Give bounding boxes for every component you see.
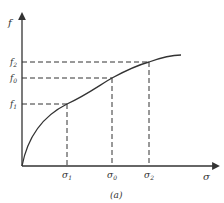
x-axis-label: σ <box>203 171 211 182</box>
tick-s1: σ1 <box>62 170 72 181</box>
tick-f0: f0 <box>9 73 17 84</box>
y-axis-label: f <box>7 17 14 28</box>
tick-s2: σ2 <box>144 170 154 181</box>
figure-caption: (a) <box>110 190 123 200</box>
stress-strength-diagram: f σ f2 f0 f1 σ1 σ0 σ2 (a) <box>0 0 224 203</box>
curve <box>22 55 181 166</box>
tick-f2: f2 <box>9 57 17 68</box>
tick-f1: f1 <box>9 99 17 110</box>
tick-s0: σ0 <box>107 170 117 181</box>
